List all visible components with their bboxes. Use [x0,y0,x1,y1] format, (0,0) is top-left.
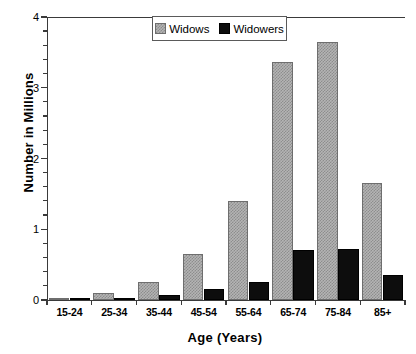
y-tick-label: 3 [21,80,39,96]
bars-layer [47,17,405,300]
bar-widowers-45-54 [204,289,225,300]
x-tick-mark [315,300,316,305]
x-tick-mark [270,300,271,305]
x-category-label: 75-84 [316,306,361,318]
bar-widowers-55-64 [249,282,270,300]
x-category-label: 15-24 [47,306,92,318]
x-tick-mark [91,300,92,305]
legend-item-widowers: Widowers [219,23,283,35]
y-tick-label: 1 [21,221,39,237]
x-tick-mark [46,300,47,305]
x-category-label: 85+ [360,306,405,318]
x-tick-mark [181,300,182,305]
bar-widowers-75-84 [338,249,359,300]
bar-widows-75-84 [317,42,338,300]
bar-widowers-15-24 [70,298,91,300]
x-category-label: 55-64 [226,306,271,318]
x-category-label: 25-34 [92,306,137,318]
legend-item-widows: Widows [155,23,209,35]
legend: Widows Widowers [152,16,287,41]
y-tick-label: 4 [21,9,39,25]
bar-widows-35-44 [138,282,159,300]
bar-widowers-85+ [383,275,404,300]
y-axis-title: Number in Millions [21,43,36,223]
x-tick-mark [136,300,137,305]
bar-widows-15-24 [49,298,70,300]
bar-chart: Number in Millions 01234 15-2425-3435-44… [0,0,416,354]
legend-swatch-widows-icon [155,23,166,34]
x-tick-mark [360,300,361,305]
legend-label-widows: Widows [169,23,209,35]
x-category-label: 35-44 [137,306,182,318]
y-tick-label: 0 [21,292,39,308]
bar-widows-45-54 [183,254,204,300]
legend-label-widowers: Widowers [233,23,283,35]
bar-widowers-65-74 [293,250,314,300]
x-tick-mark [404,300,405,305]
x-tick-mark [225,300,226,305]
legend-swatch-widowers-icon [219,23,230,34]
y-tick-label: 2 [21,151,39,167]
bar-widows-25-34 [93,293,114,300]
bar-widows-85+ [362,183,383,300]
bar-widowers-35-44 [159,295,180,300]
bar-widows-65-74 [272,62,293,300]
bar-widowers-25-34 [114,298,135,300]
x-category-label: 45-54 [181,306,226,318]
x-category-label: 65-74 [271,306,316,318]
x-axis-title: Age (Years) [45,330,405,345]
bar-widows-55-64 [228,201,249,300]
